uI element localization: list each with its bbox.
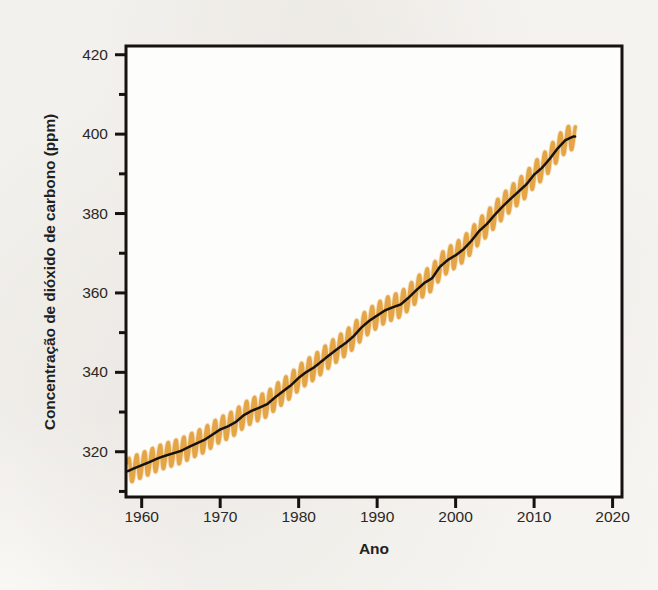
x-tick-label-2000: 2000 <box>421 509 491 525</box>
y-tick-label-340: 340 <box>62 365 108 381</box>
y-tick-label-380: 380 <box>62 206 108 222</box>
y-axis-title: Concentração de dióxido de carbono (ppm) <box>36 52 64 492</box>
y-tick-label-320: 320 <box>62 444 108 460</box>
y-axis-tick-labels: 320340360380400420 <box>62 0 108 590</box>
x-tick-label-1960: 1960 <box>107 509 177 525</box>
x-tick-label-1980: 1980 <box>264 509 334 525</box>
x-tick-label-2020: 2020 <box>578 509 648 525</box>
y-tick-label-360: 360 <box>62 285 108 301</box>
x-axis-title: Ano <box>126 540 622 558</box>
x-tick-label-2010: 2010 <box>499 509 569 525</box>
y-tick-label-400: 400 <box>62 126 108 142</box>
co2-concentration-chart: 320340360380400420 196019701980199020002… <box>0 0 658 590</box>
x-tick-label-1970: 1970 <box>185 509 255 525</box>
x-axis-tick-labels: 1960197019801990200020102020 <box>0 509 658 531</box>
y-tick-label-420: 420 <box>62 47 108 63</box>
x-tick-label-1990: 1990 <box>342 509 412 525</box>
